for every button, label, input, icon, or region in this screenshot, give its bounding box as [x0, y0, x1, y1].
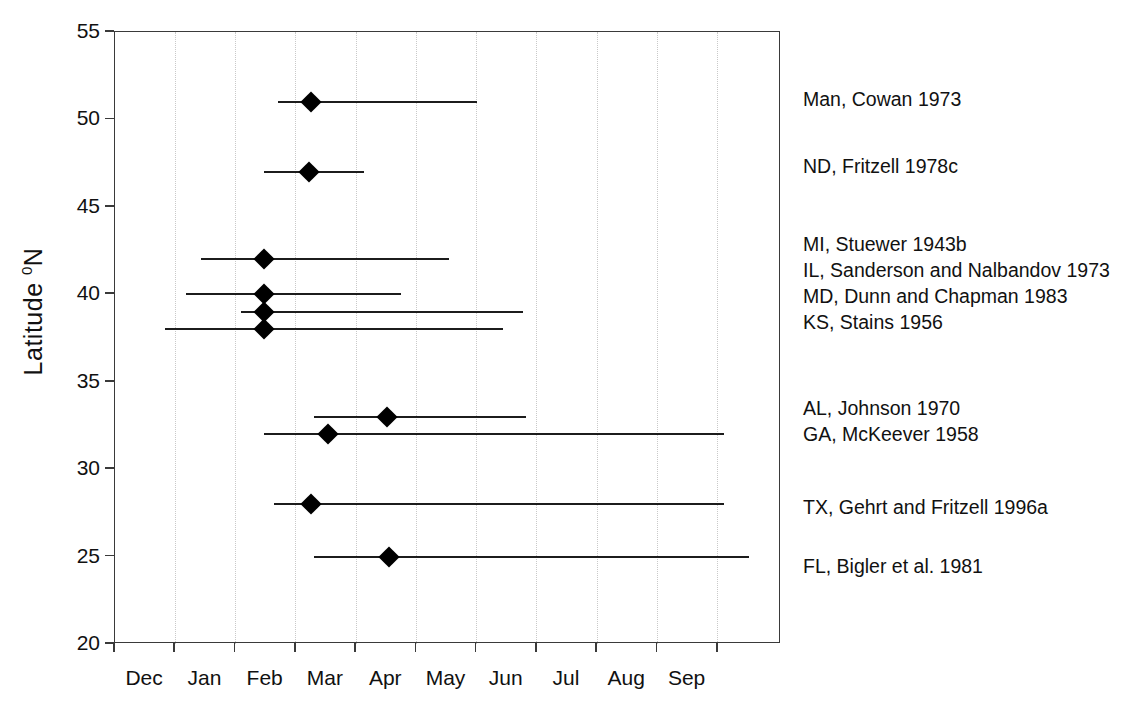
- x-tick-mark-0: [113, 643, 115, 652]
- data-point-marker: [253, 319, 274, 340]
- annotation-label: KS, Stains 1956: [803, 313, 943, 333]
- gridline-5: [416, 32, 417, 644]
- range-line: [165, 328, 503, 330]
- y-tick-label-55: 55: [54, 20, 100, 41]
- y-tick-mark-55: [105, 30, 114, 32]
- annotation-label: MI, Stuewer 1943b: [803, 235, 967, 255]
- data-point-marker: [301, 494, 322, 515]
- y-tick-mark-50: [105, 118, 114, 120]
- gridline-3: [295, 32, 296, 644]
- data-point-marker: [317, 424, 338, 445]
- range-line: [274, 503, 724, 505]
- y-tick-mark-25: [105, 555, 114, 557]
- chart-figure: Latitude 0N 2025303540455055 DecJanFebMa…: [0, 0, 1135, 710]
- x-tick-mark-2: [234, 643, 236, 652]
- x-tick-mark-4: [354, 643, 356, 652]
- y-tick-label-45: 45: [54, 195, 100, 216]
- x-tick-label-sep: Sep: [647, 667, 727, 688]
- y-tick-mark-35: [105, 380, 114, 382]
- x-tick-mark-9: [656, 643, 658, 652]
- y-tick-label-25: 25: [54, 545, 100, 566]
- x-tick-mark-5: [415, 643, 417, 652]
- y-tick-mark-30: [105, 467, 114, 469]
- y-axis-hemisphere: N: [19, 248, 47, 267]
- gridline-6: [476, 32, 477, 644]
- y-axis-title-text: Latitude: [19, 282, 47, 375]
- y-axis-title: Latitude 0N: [19, 217, 48, 407]
- x-tick-mark-3: [294, 643, 296, 652]
- annotation-label: GA, McKeever 1958: [803, 425, 979, 445]
- x-tick-mark-10: [716, 643, 718, 652]
- y-tick-mark-45: [105, 205, 114, 207]
- data-point-marker: [298, 161, 319, 182]
- gridline-4: [356, 32, 357, 644]
- gridline-10: [717, 32, 718, 644]
- y-tick-label-30: 30: [54, 457, 100, 478]
- y-tick-label-35: 35: [54, 370, 100, 391]
- annotation-label: MD, Dunn and Chapman 1983: [803, 287, 1068, 307]
- annotation-label: IL, Sanderson and Nalbandov 1973: [803, 261, 1110, 281]
- y-tick-label-40: 40: [54, 282, 100, 303]
- gridline-1: [175, 32, 176, 644]
- annotation-label: FL, Bigler et al. 1981: [803, 557, 983, 577]
- range-line: [314, 416, 526, 418]
- range-line: [241, 311, 523, 313]
- data-point-marker: [300, 91, 321, 112]
- data-point-marker: [377, 406, 398, 427]
- gridline-9: [657, 32, 658, 644]
- annotation-label: TX, Gehrt and Fritzell 1996a: [803, 498, 1048, 518]
- annotation-label: ND, Fritzell 1978c: [803, 157, 958, 177]
- data-point-marker: [253, 249, 274, 270]
- x-tick-mark-7: [535, 643, 537, 652]
- range-line: [186, 293, 401, 295]
- x-tick-mark-8: [595, 643, 597, 652]
- plot-area: [114, 31, 780, 643]
- gridline-8: [597, 32, 598, 644]
- y-tick-label-50: 50: [54, 107, 100, 128]
- y-tick-label-20: 20: [54, 632, 100, 653]
- annotation-label: Man, Cowan 1973: [803, 90, 961, 110]
- y-tick-mark-40: [105, 292, 114, 294]
- x-tick-mark-6: [475, 643, 477, 652]
- gridline-7: [536, 32, 537, 644]
- annotation-label: AL, Johnson 1970: [803, 399, 960, 419]
- y-axis-degree-symbol: 0: [18, 266, 35, 275]
- range-line: [201, 258, 449, 260]
- gridline-2: [235, 32, 236, 644]
- x-tick-mark-1: [173, 643, 175, 652]
- data-point-marker: [379, 546, 400, 567]
